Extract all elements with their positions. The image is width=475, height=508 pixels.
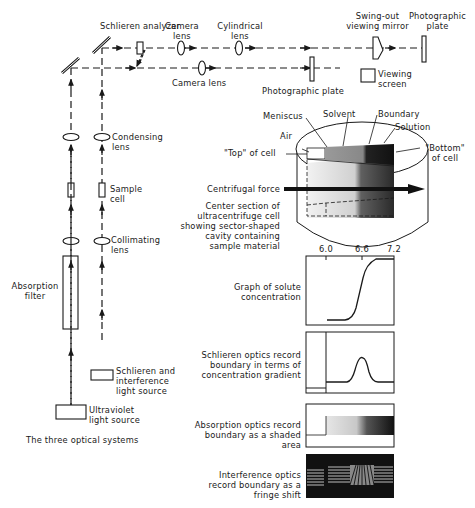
meniscus-label: Meniscus: [263, 111, 303, 121]
air-label: Air: [280, 131, 292, 141]
photographic-plate-icon: [422, 36, 426, 62]
centrifugal-force-label: Centrifugal force: [180, 184, 280, 194]
sample-cell-icon: [99, 183, 105, 197]
collimating-lens-label: Collimating lens: [111, 235, 161, 255]
tick-7-2: 7.2: [384, 244, 404, 254]
schlieren-record-label: Schlieren optics record boundary in term…: [190, 350, 301, 380]
camera-lens-icon: [199, 61, 206, 75]
photographic-plate-icon: [310, 57, 314, 81]
camera-lens-bottom-label: Camera lens: [172, 78, 226, 88]
cell-description: Center section of ultracentrifuge cell s…: [172, 201, 280, 251]
photographic-plate-right-label: Photographic plate: [405, 11, 470, 31]
boundary-label: Boundary: [378, 109, 420, 119]
diagram-caption: The three optical systems: [26, 435, 138, 445]
condensing-lens-label: Condensing lens: [112, 132, 157, 152]
absorption-record-label: Absorption optics record boundary as a s…: [190, 420, 301, 450]
absorption-record: [306, 404, 394, 447]
swing-out-mirror-icon: [373, 37, 383, 59]
solvent-label: Solvent: [323, 109, 356, 119]
bottom-of-cell-label: "Bottom" of cell: [420, 143, 470, 163]
sample-cell-label: Sample cell: [110, 184, 145, 204]
top-of-cell-label: "Top" of cell: [224, 148, 276, 158]
solute-graph-label: Graph of solute concentration: [215, 282, 301, 302]
condensing-lens-icon: [94, 134, 110, 141]
uv-source-label: Ultraviolet light source: [89, 405, 144, 425]
tick-6-0: 6.0: [316, 244, 336, 254]
solution-label: Solution: [395, 122, 430, 132]
interference-record-label: Interference optics record boundary as a…: [190, 470, 301, 500]
photographic-plate-mid-label: Photographic plate: [262, 86, 344, 96]
cylindrical-lens-label: Cylindrical lens: [215, 21, 265, 41]
absorption-filter-label: Absorption filter: [8, 281, 62, 301]
viewing-screen-icon: [361, 69, 375, 82]
uv-light-source-icon: [56, 405, 86, 419]
schlieren-source-label: Schlieren and interference light source: [116, 366, 181, 396]
camera-lens-top-label: Camera lens: [163, 21, 201, 41]
solute-concentration-graph: [306, 256, 394, 325]
tick-6-6: 6.6: [352, 244, 372, 254]
condensing-lens-icon: [63, 134, 79, 141]
schlieren-analyzer-icon: [137, 42, 143, 54]
schlieren-record: [306, 332, 394, 393]
collimating-lens-icon: [94, 238, 110, 245]
viewing-screen-label: Viewing screen: [378, 69, 418, 89]
cylindrical-lens-icon: [236, 41, 243, 55]
ultracentrifuge-cell: [284, 115, 428, 247]
interference-record: [306, 454, 394, 498]
schlieren-light-source-icon: [91, 370, 113, 380]
camera-lens-icon: [178, 41, 185, 55]
swing-out-mirror-label: Swing-out viewing mirror: [340, 11, 415, 31]
